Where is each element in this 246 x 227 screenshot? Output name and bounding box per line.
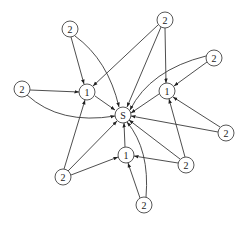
node-2-bottom-left: 2 [55,169,71,185]
node-s: S [115,107,131,123]
svg-text:2: 2 [184,160,189,171]
svg-text:S: S [120,110,126,121]
svg-text:2: 2 [20,84,25,95]
edge-2br-to-1bottom [134,156,178,163]
edge-2rl-to-1right [173,97,220,127]
node-2-top-left: 2 [62,21,78,37]
svg-text:2: 2 [142,200,147,211]
edge-2left-to-s [27,95,115,118]
edge-1bottom-to-s [124,123,125,147]
edge-2top-to-1right [165,28,166,83]
node-1-bottom: 1 [118,147,134,163]
edge-2top-to-1left [93,25,158,86]
edge-2left-to-1left [30,90,79,92]
node-2-right-lower: 2 [218,125,234,141]
svg-text:1: 1 [85,87,90,98]
edge-2bl-to-1left [64,100,85,169]
edge-1right-to-s [131,94,159,113]
edge-2bottom-to-1bottom [128,163,140,198]
svg-text:2: 2 [212,53,217,64]
svg-text:1: 1 [165,86,170,97]
node-1-right: 1 [159,83,175,99]
node-2-left: 2 [14,81,30,97]
svg-text:2: 2 [163,15,168,26]
node-2-top: 2 [157,12,173,28]
edge-2top-to-s [127,27,161,107]
svg-text:2: 2 [68,24,73,35]
node-2-bottom-right: 2 [178,157,194,173]
edge-2bl-to-s [68,121,117,171]
edge-1left-to-s [95,96,115,110]
svg-text:1: 1 [124,150,129,161]
graph-diagram: S 1 1 1 2 2 2 2 2 2 2 2 [0,0,246,227]
edge-2br-to-s [129,120,180,159]
svg-text:2: 2 [224,128,229,139]
edge-2tl-to-1left [71,37,84,84]
node-2-right-upper: 2 [206,50,222,66]
node-2-bottom: 2 [136,197,152,213]
node-1-left: 1 [79,84,95,100]
edge-2br-to-1right [169,99,185,157]
svg-text:2: 2 [61,172,66,183]
edge-2bl-to-1bottom [71,157,118,175]
